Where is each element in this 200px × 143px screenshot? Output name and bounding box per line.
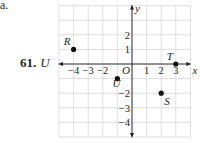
x-tick-label: −3 xyxy=(83,65,94,76)
point-label-S: S xyxy=(164,95,170,107)
point-S xyxy=(159,91,164,96)
y-tick-label: 2 xyxy=(125,30,130,41)
origin-label: O xyxy=(122,64,130,76)
point-R xyxy=(71,47,76,52)
coordinate-plane: xyO−4−3−212321−2−3−4 RTUS xyxy=(0,0,200,143)
y-tick-label: −3 xyxy=(119,103,130,114)
x-axis-label: x xyxy=(191,64,197,76)
x-tick-label: 3 xyxy=(173,65,178,76)
point-label-R: R xyxy=(63,35,71,47)
x-tick-label: 2 xyxy=(159,65,164,76)
x-tick-label: −4 xyxy=(68,65,80,76)
y-axis-label: y xyxy=(134,2,140,14)
point-label-U: U xyxy=(112,77,121,89)
y-tick-label: −2 xyxy=(119,88,130,99)
point-T xyxy=(173,61,178,66)
point-label-T: T xyxy=(167,50,174,62)
x-tick-label: 1 xyxy=(144,65,149,76)
y-tick-label: 1 xyxy=(125,44,130,55)
x-tick-label: −2 xyxy=(97,65,108,76)
y-tick-label: −4 xyxy=(119,117,131,128)
